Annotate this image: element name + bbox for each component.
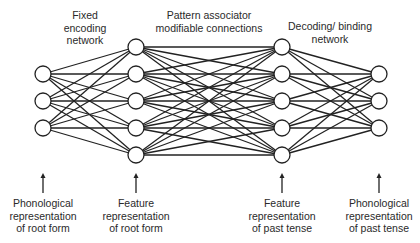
feature-past-layer-node (274, 66, 290, 82)
network-label-pattern-associator: Pattern associatormodifiable connections (156, 9, 263, 34)
phonological-past-layer-node (371, 66, 387, 82)
label-line: representation (9, 210, 76, 223)
label-line: of past tense (345, 222, 412, 235)
network-label-decoding-binding: Decoding/ bindingnetwork (288, 20, 372, 45)
label-line: encoding (64, 22, 107, 35)
label-line: of past tense (248, 222, 315, 235)
phonological-past-layer-node (371, 93, 387, 109)
feature-root-layer-node (128, 147, 144, 163)
up-arrow-icon (134, 173, 139, 193)
phonological-root-layer-node (35, 120, 51, 136)
up-arrow-icon (280, 173, 285, 193)
representation-label-phon-past: Phonologicalrepresentationof past tense (345, 197, 412, 235)
label-line: Phonological (9, 197, 76, 210)
connection-line (43, 47, 136, 74)
connection-line (43, 47, 136, 128)
label-line: Feature (102, 197, 169, 210)
label-line: Phonological (345, 197, 412, 210)
connection-line (282, 128, 379, 155)
network-label-fixed-encoding: Fixedencodingnetwork (64, 9, 107, 47)
feature-root-layer-node (128, 120, 144, 136)
label-line: representation (345, 210, 412, 223)
label-line: of root form (102, 222, 169, 235)
phonological-root-layer-node (35, 93, 51, 109)
feature-past-layer-node (274, 147, 290, 163)
label-line: modifiable connections (156, 22, 263, 35)
label-line: Fixed (64, 9, 107, 22)
up-arrow-icon (41, 173, 46, 193)
phonological-root-layer-node (35, 66, 51, 82)
input-arrows (41, 173, 382, 193)
connection-line (282, 74, 379, 155)
feature-past-layer-node (274, 93, 290, 109)
label-line: of root form (9, 222, 76, 235)
feature-past-layer-node (274, 120, 290, 136)
feature-root-layer-node (128, 93, 144, 109)
representation-label-phon-root: Phonologicalrepresentationof root form (9, 197, 76, 235)
feature-root-layer-node (128, 66, 144, 82)
up-arrow-icon (377, 173, 382, 193)
feature-root-layer-node (128, 39, 144, 55)
label-line: Feature (248, 197, 315, 210)
phonological-past-layer-node (371, 120, 387, 136)
label-line: network (64, 34, 107, 47)
label-line: network (288, 33, 372, 46)
label-line: representation (248, 210, 315, 223)
label-line: representation (102, 210, 169, 223)
connections (43, 47, 379, 155)
label-line: Pattern associator (156, 9, 263, 22)
connection-line (43, 128, 136, 155)
representation-label-feat-past: Featurerepresentationof past tense (248, 197, 315, 235)
label-line: Decoding/ binding (288, 20, 372, 33)
connection-line (282, 47, 379, 74)
representation-label-feat-root: Featurerepresentationof root form (102, 197, 169, 235)
